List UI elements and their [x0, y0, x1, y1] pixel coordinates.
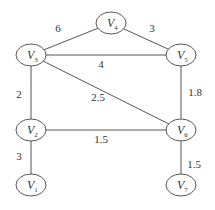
- edges: [31, 23, 181, 185]
- edge-weights: 63422.51.81.531.5: [16, 22, 202, 170]
- node-v5: V5: [166, 44, 196, 66]
- edge-v3-v6: [31, 55, 181, 130]
- edge-weight-label: 2: [16, 88, 22, 100]
- edge-weight-label: 1.8: [188, 86, 202, 98]
- node-v1: V1: [16, 174, 46, 196]
- node-v6: V6: [166, 119, 196, 141]
- edge-weight-label: 3: [149, 22, 155, 34]
- node-v7: V7: [166, 174, 196, 196]
- edge-weight-label: 1.5: [94, 133, 108, 145]
- nodes: V1V2V3V4V5V6V7: [16, 12, 196, 196]
- edge-weight-label: 1.5: [187, 158, 201, 170]
- node-v4: V4: [96, 12, 126, 34]
- edge-weight-label: 2.5: [91, 91, 105, 103]
- weighted-graph: 63422.51.81.531.5 V1V2V3V4V5V6V7: [0, 0, 215, 210]
- node-v3: V3: [16, 44, 46, 66]
- node-v2: V2: [16, 119, 46, 141]
- edge-weight-label: 3: [16, 150, 22, 162]
- edge-weight-label: 4: [98, 58, 104, 70]
- edge-weight-label: 6: [55, 22, 61, 34]
